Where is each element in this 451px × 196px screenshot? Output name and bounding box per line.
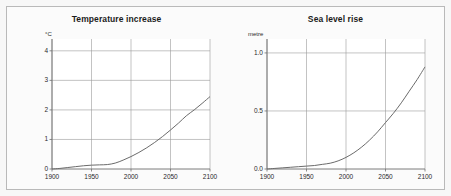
y-axis-tick-label: 1.0 <box>237 49 263 56</box>
figure-inner-border: Temperature increase °C a 01234 19001950… <box>6 6 445 190</box>
chart-svg-sea-level-rise <box>267 39 425 169</box>
x-axis-tick-label: 1900 <box>254 173 280 180</box>
plot-area-temperature-increase <box>52 39 210 169</box>
chart-title-sea-level-rise: Sea level rise <box>226 14 445 24</box>
x-axis-tick-label: 1900 <box>39 173 65 180</box>
y-axis-tick-label: 1 <box>22 135 48 142</box>
chart-title-temperature-increase: Temperature increase <box>7 14 226 24</box>
y-axis-tick-label: 0.0 <box>237 165 263 172</box>
y-axis-tick-label: 0 <box>22 165 48 172</box>
plot-area-sea-level-rise <box>267 39 425 169</box>
x-axis-tick-label: 2000 <box>118 173 144 180</box>
y-axis-unit-metre: metre <box>248 31 263 37</box>
x-axis-tick-label: 2050 <box>373 173 399 180</box>
y-axis-tick-label: 3 <box>22 76 48 83</box>
y-axis-unit-celsius: °C <box>45 31 52 37</box>
x-axis-tick-label: 2100 <box>197 173 223 180</box>
chart-panel-temperature-increase: Temperature increase °C a 01234 19001950… <box>7 7 226 189</box>
x-axis-tick-label: 2100 <box>412 173 438 180</box>
chart-panel-sea-level-rise: Sea level rise metre b 0.00.51.0 1900195… <box>226 7 445 189</box>
y-axis-tick-label: 0.5 <box>237 107 263 114</box>
figure-frame: Temperature increase °C a 01234 19001950… <box>0 0 451 196</box>
x-axis-tick-label: 2050 <box>158 173 184 180</box>
chart-svg-temperature-increase <box>52 39 210 169</box>
x-axis-tick-label: 1950 <box>79 173 105 180</box>
x-axis-tick-label: 1950 <box>294 173 320 180</box>
x-axis-tick-label: 2000 <box>333 173 359 180</box>
y-axis-tick-label: 2 <box>22 106 48 113</box>
y-axis-tick-label: 4 <box>22 47 48 54</box>
